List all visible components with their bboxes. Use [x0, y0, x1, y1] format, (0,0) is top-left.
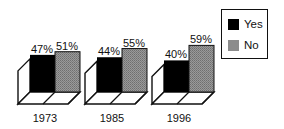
bar-yes-1973 — [30, 55, 55, 92]
legend-item-no: No — [228, 39, 259, 51]
value-label-no-1996: 59% — [190, 33, 212, 45]
legend-label-no: No — [244, 39, 259, 51]
bar-group-1973: 47%51%1973 — [18, 40, 80, 124]
value-label-yes-1985: 44% — [98, 45, 120, 57]
bar-no-1973 — [55, 52, 80, 92]
value-label-yes-1973: 47% — [31, 43, 53, 55]
legend-swatch-yes — [228, 19, 239, 30]
category-label-1996: 1996 — [167, 112, 191, 124]
bar-no-1985 — [122, 49, 147, 92]
legend-item-yes: Yes — [228, 18, 263, 30]
value-label-yes-1996: 40% — [165, 48, 187, 60]
chart-legend: Yes No — [221, 9, 268, 59]
legend-swatch-no — [228, 40, 239, 51]
bar-yes-1996 — [164, 60, 189, 92]
bar-group-1985: 44%55%1985 — [85, 37, 147, 124]
value-label-no-1973: 51% — [56, 40, 78, 52]
legend-label-yes: Yes — [244, 18, 263, 30]
category-label-1973: 1973 — [33, 112, 57, 124]
category-label-1985: 1985 — [100, 112, 124, 124]
bar-yes-1985 — [97, 57, 122, 92]
bar-no-1996 — [189, 45, 214, 92]
value-label-no-1985: 55% — [123, 37, 145, 49]
bar-group-1996: 40%59%1996 — [152, 33, 214, 124]
